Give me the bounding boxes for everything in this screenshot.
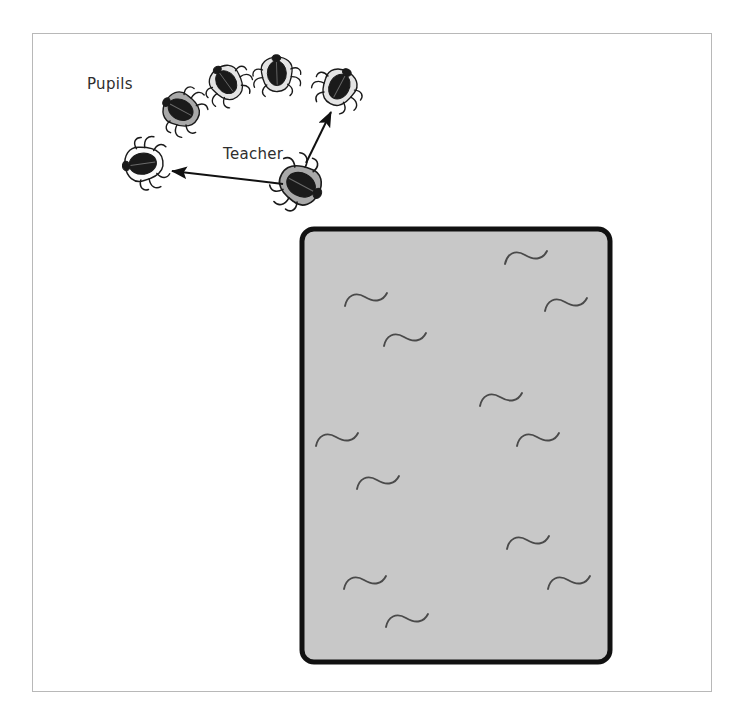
pupils-label: Pupils (87, 75, 133, 93)
figure-root: Pupils Teacher (0, 0, 745, 706)
figure-border-frame (32, 33, 712, 692)
teacher-label: Teacher (223, 145, 283, 163)
